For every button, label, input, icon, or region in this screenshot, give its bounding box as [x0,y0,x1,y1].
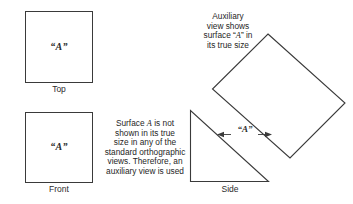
side-view-caption: Side [192,184,268,194]
dimension-arrowhead-right [265,132,272,137]
auxiliary-note-line-3-pre: surface “ [204,30,236,40]
diagram-canvas: “A” Top “A” Front “A” Side Auxiliary vie… [0,0,353,204]
auxiliary-note-line-3-post: ” in [241,30,253,40]
surface-note-line-1-post: is not [152,118,174,128]
side-view-triangle [191,111,269,182]
surface-note-line-1-pre: Surface [116,118,147,128]
auxiliary-view-rotated-square [213,34,346,158]
dimension-arrowhead-left [217,132,224,137]
surface-note-line-6: auxiliary view is used [96,167,194,177]
auxiliary-view-note: Auxiliary view shows surface “A” in its … [186,12,270,50]
auxiliary-note-line-4: its true size [186,41,270,51]
surface-explanation-note: Surface A is not shown in its true size … [96,119,194,177]
dimension-surface-label: “A” [232,124,258,134]
